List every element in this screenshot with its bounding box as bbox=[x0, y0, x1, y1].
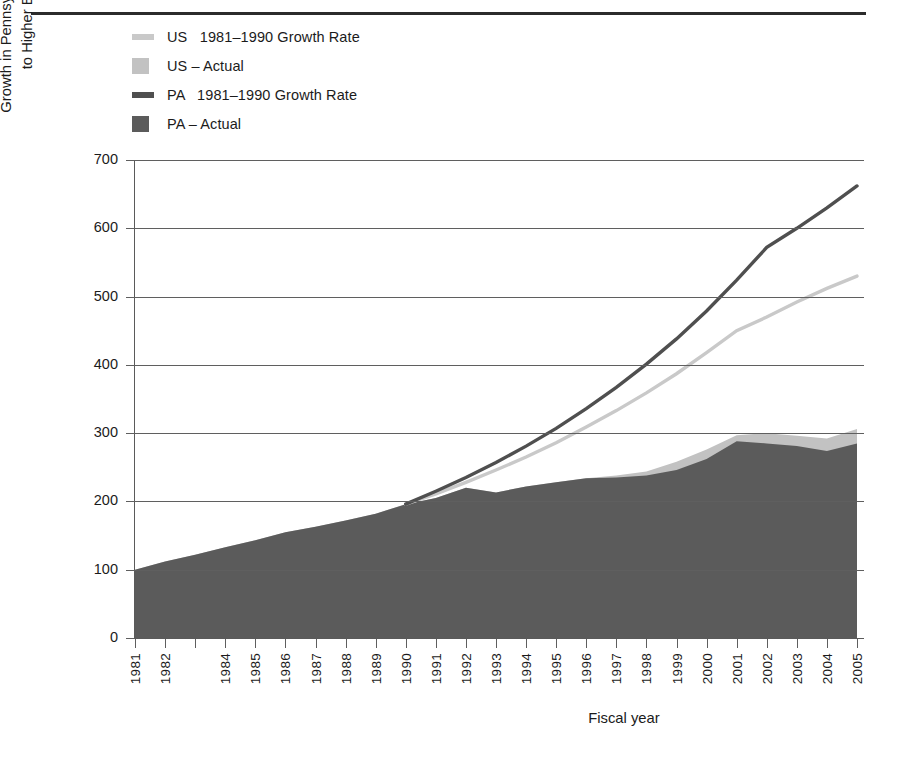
x-tick-label-1999: 1999 bbox=[670, 653, 685, 684]
y-tick-label-0: 0 bbox=[72, 629, 118, 645]
x-tick-1986 bbox=[285, 639, 286, 648]
gridline-600 bbox=[134, 228, 864, 229]
legend-us-growth-rate: US 1981–1990 Growth Rate bbox=[132, 22, 360, 51]
legend-us-actual-label: US – Actual bbox=[167, 58, 244, 74]
chart-legend: US 1981–1990 Growth RateUS – ActualPA 19… bbox=[132, 22, 360, 138]
legend-pa-actual: PA – Actual bbox=[132, 109, 360, 138]
gridline-700 bbox=[134, 160, 864, 161]
gridline-300 bbox=[134, 433, 864, 434]
plot-frame bbox=[134, 160, 865, 638]
gridline-100 bbox=[134, 570, 864, 571]
x-tick-label-1997: 1997 bbox=[609, 653, 624, 684]
y-tick-label-500: 500 bbox=[72, 288, 118, 304]
legend-us-growth-rate-swatch bbox=[132, 34, 154, 40]
x-tick-label-1988: 1988 bbox=[339, 653, 354, 684]
y-tick-400 bbox=[126, 365, 134, 366]
x-tick-1999 bbox=[677, 639, 678, 648]
x-tick-2002 bbox=[767, 639, 768, 648]
x-tick-label-1986: 1986 bbox=[278, 653, 293, 684]
x-tick-label-1993: 1993 bbox=[489, 653, 504, 684]
x-tick-1981 bbox=[135, 639, 136, 648]
x-tick-1991 bbox=[436, 639, 437, 648]
x-tick-label-1985: 1985 bbox=[248, 653, 263, 684]
x-tick-1995 bbox=[556, 639, 557, 648]
x-tick-label-1991: 1991 bbox=[429, 653, 444, 684]
x-tick-label-1996: 1996 bbox=[579, 653, 594, 684]
y-tick-100 bbox=[126, 570, 134, 571]
x-tick-1987 bbox=[316, 639, 317, 648]
x-tick-label-1981: 1981 bbox=[128, 653, 143, 684]
x-tick-2005 bbox=[857, 639, 858, 648]
legend-us-growth-rate-label: US 1981–1990 Growth Rate bbox=[167, 29, 360, 45]
y-tick-label-100: 100 bbox=[72, 561, 118, 577]
x-tick-1992 bbox=[466, 639, 467, 648]
x-tick-label-1990: 1990 bbox=[399, 653, 414, 684]
x-tick-1998 bbox=[646, 639, 647, 648]
x-tick-1982 bbox=[165, 639, 166, 648]
gridline-400 bbox=[134, 365, 864, 366]
x-tick-label-1982: 1982 bbox=[158, 653, 173, 684]
legend-us-actual-swatch bbox=[132, 58, 149, 74]
legend-pa-growth-rate-label: PA 1981–1990 Growth Rate bbox=[167, 87, 357, 103]
y-tick-700 bbox=[126, 160, 134, 161]
x-tick-2003 bbox=[797, 639, 798, 648]
x-tick-1988 bbox=[346, 639, 347, 648]
x-tick-1990 bbox=[406, 639, 407, 648]
legend-pa-growth-rate: PA 1981–1990 Growth Rate bbox=[132, 80, 360, 109]
x-axis-title: Fiscal year bbox=[0, 710, 898, 726]
x-tick-1996 bbox=[586, 639, 587, 648]
y-tick-label-400: 400 bbox=[72, 356, 118, 372]
y-tick-label-700: 700 bbox=[72, 151, 118, 167]
x-tick-label-1994: 1994 bbox=[519, 653, 534, 684]
x-tick-1984 bbox=[225, 639, 226, 648]
x-tick-label-1987: 1987 bbox=[309, 653, 324, 684]
x-tick-1985 bbox=[255, 639, 256, 648]
legend-us-actual: US – Actual bbox=[132, 51, 360, 80]
x-tick-label-1998: 1998 bbox=[639, 653, 654, 684]
x-tick-2000 bbox=[707, 639, 708, 648]
top-divider-rule bbox=[31, 12, 866, 15]
y-axis-title-line2: to Higher Education(Index 1981 = 100) bbox=[17, 0, 38, 172]
y-tick-500 bbox=[126, 297, 134, 298]
x-tick-label-1995: 1995 bbox=[549, 653, 564, 684]
x-tick-label-1992: 1992 bbox=[459, 653, 474, 684]
x-tick-2004 bbox=[827, 639, 828, 648]
x-tick-label-2000: 2000 bbox=[700, 653, 715, 684]
y-axis-title-line1: Growth in Pennsylvania and National Appr… bbox=[0, 0, 17, 172]
y-tick-label-600: 600 bbox=[72, 219, 118, 235]
x-tick-label-2001: 2001 bbox=[730, 653, 745, 684]
gridline-200 bbox=[134, 501, 864, 502]
x-tick-2001 bbox=[737, 639, 738, 648]
x-tick-label-2005: 2005 bbox=[850, 653, 865, 684]
y-tick-600 bbox=[126, 228, 134, 229]
y-tick-0 bbox=[126, 638, 134, 639]
chart-plot-area: 0100200300400500600700198119821984198519… bbox=[134, 160, 864, 638]
legend-pa-actual-swatch bbox=[132, 116, 149, 132]
x-tick-1994 bbox=[526, 639, 527, 648]
x-tick-label-2002: 2002 bbox=[760, 653, 775, 684]
legend-pa-growth-rate-swatch bbox=[132, 92, 154, 98]
x-axis-line bbox=[134, 638, 864, 639]
x-tick-label-2003: 2003 bbox=[790, 653, 805, 684]
x-tick-1997 bbox=[616, 639, 617, 648]
x-tick-label-1984: 1984 bbox=[218, 653, 233, 684]
y-tick-300 bbox=[126, 433, 134, 434]
gridline-500 bbox=[134, 297, 864, 298]
x-tick-1989 bbox=[376, 639, 377, 648]
x-axis-title-text: Fiscal year bbox=[588, 710, 660, 726]
x-tick-label-1989: 1989 bbox=[369, 653, 384, 684]
legend-pa-actual-label: PA – Actual bbox=[167, 116, 241, 132]
x-tick-1983 bbox=[195, 639, 196, 648]
y-axis-title: Growth in Pennsylvania and National Appr… bbox=[0, 0, 38, 172]
x-tick-1993 bbox=[496, 639, 497, 648]
y-tick-label-200: 200 bbox=[72, 492, 118, 508]
x-tick-label-2004: 2004 bbox=[820, 653, 835, 684]
y-tick-200 bbox=[126, 501, 134, 502]
y-tick-label-300: 300 bbox=[72, 424, 118, 440]
